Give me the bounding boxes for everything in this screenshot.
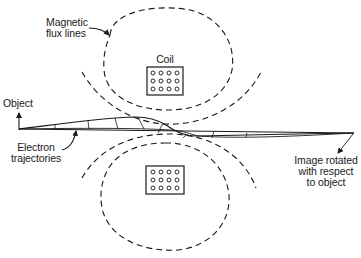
flux-lines-label: Magnetic flux lines xyxy=(46,17,92,39)
electron-trajectories-label-line-2: trajectories xyxy=(10,153,62,164)
coil-top xyxy=(147,67,183,95)
electron-trajectory-upper xyxy=(19,117,354,136)
flux-label-leader xyxy=(89,28,109,35)
object-label: Object xyxy=(3,98,37,109)
flux-lines-label-line-2: flux lines xyxy=(46,28,92,39)
flux-line-bottom-inner xyxy=(101,143,229,250)
coil-label: Coil xyxy=(152,54,178,65)
image-label-leader xyxy=(338,134,353,153)
coil-bottom xyxy=(146,166,184,194)
trajectory-label-leader xyxy=(62,131,76,150)
image-rotated-label-line-3: to object xyxy=(293,177,359,188)
electron-trajectories-label: Electron trajectories xyxy=(10,142,62,164)
image-rotated-label: Image rotated with respect to object xyxy=(293,155,359,188)
